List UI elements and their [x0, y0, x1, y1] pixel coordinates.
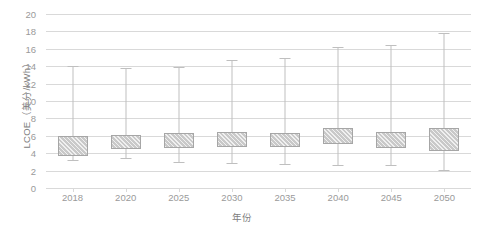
- box-whisker-2018[interactable]: [46, 14, 99, 188]
- box-body: [58, 136, 88, 156]
- box-whisker-2020[interactable]: [99, 14, 152, 188]
- box-body: [270, 133, 300, 147]
- x-tick-label-2025: 2025: [168, 192, 189, 203]
- box-whisker-2050[interactable]: [418, 14, 471, 188]
- y-tick-label-0: 0: [31, 183, 36, 194]
- x-tick-label-2050: 2050: [434, 192, 455, 203]
- x-tick-label-2020: 2020: [115, 192, 136, 203]
- box-body: [111, 135, 141, 149]
- y-tick-label-8: 8: [31, 113, 36, 124]
- y-tick-label-18: 18: [25, 26, 36, 37]
- x-tick-label-2040: 2040: [328, 192, 349, 203]
- plot-area: [46, 14, 471, 188]
- y-tick-label-12: 12: [25, 78, 36, 89]
- y-tick-label-14: 14: [25, 61, 36, 72]
- box-whisker-2025[interactable]: [152, 14, 205, 188]
- whisker-cap-low: [333, 165, 344, 166]
- whisker-cap-low: [173, 162, 184, 163]
- x-axis-tick-labels: 20182020202520302035204020452050: [46, 192, 471, 208]
- box-body: [217, 132, 247, 147]
- x-tick-label-2035: 2035: [274, 192, 295, 203]
- box-whisker-2035[interactable]: [259, 14, 312, 188]
- whisker-cap-low: [120, 158, 131, 159]
- y-tick-label-20: 20: [25, 9, 36, 20]
- box-whisker-2045[interactable]: [365, 14, 418, 188]
- whisker-line: [231, 60, 232, 163]
- y-tick-label-2: 2: [31, 165, 36, 176]
- y-tick-label-10: 10: [25, 96, 36, 107]
- box-body: [376, 132, 406, 148]
- box-body: [164, 133, 194, 148]
- y-tick-label-4: 4: [31, 148, 36, 159]
- whisker-cap-high: [173, 67, 184, 68]
- y-axis-tick-labels: 02468101214161820: [0, 14, 42, 188]
- x-axis-title: 年份: [0, 210, 483, 224]
- whisker-cap-low: [226, 163, 237, 164]
- box-whisker-2040[interactable]: [312, 14, 365, 188]
- box-body: [323, 128, 353, 145]
- whisker-cap-low: [280, 164, 291, 165]
- y-tick-label-6: 6: [31, 130, 36, 141]
- x-tick-label-2045: 2045: [381, 192, 402, 203]
- whisker-cap-high: [439, 33, 450, 34]
- box-body: [429, 128, 459, 151]
- whisker-cap-low: [67, 160, 78, 161]
- whisker-cap-high: [120, 68, 131, 69]
- box-whisker-2030[interactable]: [205, 14, 258, 188]
- whisker-line: [338, 47, 339, 165]
- whisker-cap-high: [333, 47, 344, 48]
- whisker-cap-high: [280, 58, 291, 59]
- whisker-cap-high: [226, 60, 237, 61]
- x-tick-label-2030: 2030: [221, 192, 242, 203]
- whisker-cap-low: [439, 170, 450, 171]
- lcoe-box-plot-chart: LCOE（美分/kWh） 02468101214161820 201820202…: [0, 0, 483, 232]
- whisker-cap-high: [386, 45, 397, 46]
- whisker-cap-low: [386, 165, 397, 166]
- whisker-line: [285, 58, 286, 164]
- y-tick-label-16: 16: [25, 43, 36, 54]
- x-tick-label-2018: 2018: [62, 192, 83, 203]
- whisker-cap-high: [67, 66, 78, 67]
